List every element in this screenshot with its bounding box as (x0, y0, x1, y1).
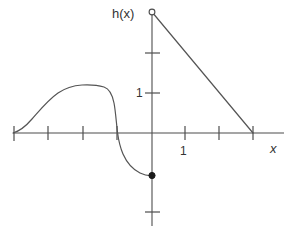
y-tick-label-one: 1 (136, 87, 143, 99)
closed-dot-icon (149, 172, 155, 178)
plot-canvas (0, 0, 297, 232)
open-circle-icon (149, 9, 155, 15)
function-graph-figure: h(x) x 1 1 (0, 0, 297, 232)
segment-right-branch (152, 12, 253, 133)
function-label: h(x) (112, 7, 134, 20)
x-tick-label-one: 1 (180, 145, 187, 157)
x-axis-label: x (270, 142, 277, 155)
